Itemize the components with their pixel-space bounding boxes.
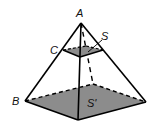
label-base-area: S' <box>87 97 97 109</box>
base-face <box>25 84 146 120</box>
label-section-corner: C <box>50 44 58 56</box>
label-apex: A <box>75 7 83 19</box>
label-section-area: S <box>101 30 109 42</box>
label-base-corner: B <box>12 95 19 107</box>
pyramid-diagram: A C S B S' <box>0 0 163 134</box>
